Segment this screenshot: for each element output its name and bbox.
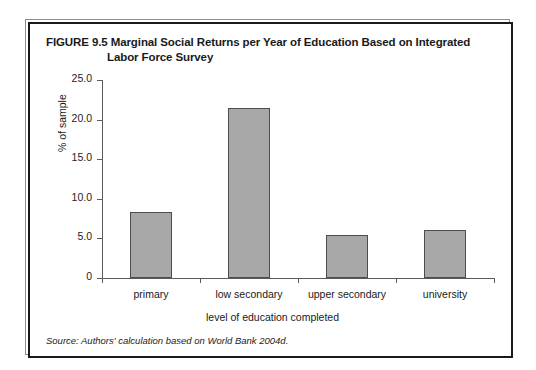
- figure-panel: FIGURE 9.5 Marginal Social Returns per Y…: [28, 22, 513, 358]
- y-axis-tick-label: 10.0: [72, 191, 92, 203]
- y-axis-tick-label: 5.0: [77, 230, 92, 242]
- y-axis-label: % of sample: [56, 94, 68, 152]
- y-axis-tick: 15.0: [97, 159, 102, 160]
- x-axis-category-label: low secondary: [215, 288, 282, 300]
- x-axis-tick: [396, 278, 397, 283]
- bar: [228, 108, 270, 278]
- x-axis-category-label: university: [423, 288, 467, 300]
- x-axis-tick: [494, 278, 495, 283]
- figure-title-line-1: FIGURE 9.5 Marginal Social Returns per Y…: [46, 35, 496, 50]
- bar: [326, 235, 368, 278]
- x-axis-tick: [102, 278, 103, 283]
- y-axis-tick: 10.0: [97, 199, 102, 200]
- y-axis-tick-label: 25.0: [72, 72, 92, 84]
- y-axis-tick-label: 0: [86, 270, 92, 282]
- bar: [130, 212, 172, 278]
- y-axis-tick: 20.0: [97, 120, 102, 121]
- y-axis-tick: 5.0: [97, 238, 102, 239]
- y-axis-tick-label: 20.0: [72, 112, 92, 124]
- y-axis-tick-label: 15.0: [72, 151, 92, 163]
- source-note: Source: Authors' calculation based on Wo…: [46, 335, 288, 346]
- plot-area: 05.010.015.020.025.0 primarylow secondar…: [102, 80, 494, 278]
- figure-title: FIGURE 9.5 Marginal Social Returns per Y…: [46, 35, 496, 65]
- x-axis-tick: [200, 278, 201, 283]
- x-axis-label: level of education completed: [30, 311, 515, 323]
- bar: [424, 230, 466, 278]
- y-axis-tick: 25.0: [97, 80, 102, 81]
- y-axis-line: [102, 80, 103, 279]
- figure-title-line-2: Labor Force Survey: [46, 50, 496, 65]
- x-axis-category-label: upper secondary: [308, 288, 386, 300]
- x-axis-category-label: primary: [133, 288, 168, 300]
- x-axis-tick: [298, 278, 299, 283]
